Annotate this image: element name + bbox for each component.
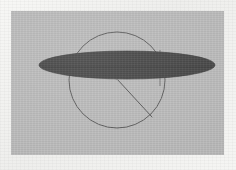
diagram-canvas bbox=[11, 11, 224, 155]
diagram-panel bbox=[11, 11, 224, 155]
figure-root: A dark flattened ellipse drawn across a … bbox=[0, 0, 236, 170]
disk-ellipse bbox=[39, 51, 215, 79]
radius-line bbox=[117, 79, 152, 117]
